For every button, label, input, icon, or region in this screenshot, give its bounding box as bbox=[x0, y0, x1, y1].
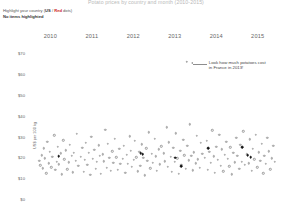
annotation-target-dot[interactable] bbox=[186, 61, 188, 63]
data-point[interactable] bbox=[108, 157, 110, 159]
data-point-highlighted[interactable] bbox=[57, 155, 60, 158]
data-point[interactable] bbox=[272, 145, 274, 147]
data-point[interactable] bbox=[252, 148, 254, 150]
data-point[interactable] bbox=[160, 145, 162, 147]
data-point[interactable] bbox=[200, 142, 202, 144]
data-point[interactable] bbox=[145, 147, 147, 149]
data-point-highlighted[interactable] bbox=[241, 146, 244, 149]
data-point[interactable] bbox=[133, 159, 135, 161]
data-point[interactable] bbox=[155, 155, 157, 157]
data-point[interactable] bbox=[91, 158, 93, 160]
data-point[interactable] bbox=[67, 161, 69, 163]
data-point[interactable] bbox=[86, 164, 88, 166]
data-point[interactable] bbox=[159, 163, 161, 165]
data-point[interactable] bbox=[121, 157, 123, 159]
data-point[interactable] bbox=[82, 171, 84, 173]
data-point[interactable] bbox=[58, 163, 60, 165]
data-point[interactable] bbox=[43, 147, 45, 149]
data-point[interactable] bbox=[178, 173, 180, 175]
data-point-highlighted[interactable] bbox=[249, 156, 252, 159]
data-point[interactable] bbox=[49, 150, 51, 152]
data-point[interactable] bbox=[260, 143, 262, 145]
data-point[interactable] bbox=[257, 151, 259, 153]
data-point[interactable] bbox=[70, 155, 72, 157]
data-point[interactable] bbox=[152, 161, 154, 163]
data-point[interactable] bbox=[48, 162, 50, 164]
data-point[interactable] bbox=[96, 161, 98, 163]
data-point[interactable] bbox=[50, 166, 52, 168]
data-point[interactable] bbox=[224, 153, 226, 155]
data-point[interactable] bbox=[99, 154, 101, 156]
data-point[interactable] bbox=[62, 139, 64, 141]
data-point[interactable] bbox=[103, 160, 105, 162]
data-point-highlighted[interactable] bbox=[174, 157, 177, 160]
data-point[interactable] bbox=[114, 138, 116, 140]
data-point[interactable] bbox=[126, 154, 128, 156]
data-point[interactable] bbox=[169, 156, 171, 158]
data-point-highlighted[interactable] bbox=[180, 165, 183, 168]
data-point[interactable] bbox=[215, 145, 217, 147]
data-point[interactable] bbox=[189, 123, 191, 125]
data-point[interactable] bbox=[139, 164, 141, 166]
data-point[interactable] bbox=[153, 137, 155, 139]
data-point[interactable] bbox=[213, 155, 215, 157]
data-point[interactable] bbox=[164, 160, 166, 162]
data-point-highlighted[interactable] bbox=[207, 147, 210, 150]
data-point[interactable] bbox=[274, 161, 276, 163]
data-point[interactable] bbox=[135, 156, 137, 158]
data-point[interactable] bbox=[142, 156, 144, 158]
data-point[interactable] bbox=[46, 141, 48, 143]
data-point[interactable] bbox=[53, 134, 55, 136]
data-point[interactable] bbox=[204, 157, 206, 159]
data-point[interactable] bbox=[253, 158, 255, 160]
data-point[interactable] bbox=[201, 153, 203, 155]
data-point[interactable] bbox=[118, 148, 120, 150]
highlight-country-label[interactable]: Highlight your country (US / Red dots) bbox=[3, 8, 72, 13]
data-point[interactable] bbox=[254, 133, 256, 135]
data-point[interactable] bbox=[250, 170, 252, 172]
data-point[interactable] bbox=[97, 144, 99, 146]
data-point[interactable] bbox=[234, 161, 236, 163]
data-point[interactable] bbox=[269, 168, 271, 170]
data-point[interactable] bbox=[247, 162, 249, 164]
data-point[interactable] bbox=[168, 141, 170, 143]
data-point[interactable] bbox=[94, 168, 96, 170]
data-point[interactable] bbox=[263, 155, 265, 157]
data-point[interactable] bbox=[236, 154, 238, 156]
data-point[interactable] bbox=[162, 152, 164, 154]
data-point[interactable] bbox=[241, 160, 243, 162]
data-point[interactable] bbox=[156, 170, 158, 172]
data-point[interactable] bbox=[84, 158, 86, 160]
data-point[interactable] bbox=[210, 162, 212, 164]
data-point[interactable] bbox=[146, 160, 148, 162]
data-point[interactable] bbox=[221, 148, 223, 150]
data-point[interactable] bbox=[40, 154, 42, 156]
data-point[interactable] bbox=[259, 160, 261, 162]
data-point[interactable] bbox=[63, 158, 65, 160]
data-point[interactable] bbox=[207, 168, 209, 170]
data-point[interactable] bbox=[60, 152, 62, 154]
data-point[interactable] bbox=[249, 138, 251, 140]
data-point[interactable] bbox=[104, 128, 106, 130]
data-point[interactable] bbox=[256, 166, 258, 168]
data-point[interactable] bbox=[266, 137, 268, 139]
data-point[interactable] bbox=[191, 169, 193, 171]
highlight-option-red[interactable]: Red bbox=[54, 8, 62, 13]
data-point[interactable] bbox=[57, 146, 59, 148]
data-point[interactable] bbox=[179, 149, 181, 151]
data-point[interactable] bbox=[112, 162, 114, 164]
data-point[interactable] bbox=[271, 157, 273, 159]
data-point[interactable] bbox=[225, 140, 227, 142]
data-point[interactable] bbox=[199, 166, 201, 168]
data-point[interactable] bbox=[196, 135, 198, 137]
data-point[interactable] bbox=[111, 150, 113, 152]
data-point[interactable] bbox=[187, 159, 189, 161]
data-point[interactable] bbox=[100, 172, 102, 174]
data-point[interactable] bbox=[149, 167, 151, 169]
data-point[interactable] bbox=[208, 151, 210, 153]
data-point[interactable] bbox=[186, 144, 188, 146]
data-point[interactable] bbox=[206, 140, 208, 142]
data-point[interactable] bbox=[174, 161, 176, 163]
data-point[interactable] bbox=[165, 126, 167, 128]
data-point[interactable] bbox=[72, 171, 74, 173]
